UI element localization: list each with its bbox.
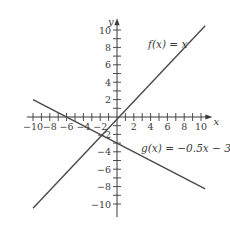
function-graph: −10−8−6−4−2246810−10−8−6−4−2246810 x y f… [0, 0, 230, 228]
svg-text:−8: −8 [97, 181, 111, 192]
function-label-f: f(x) = x [147, 38, 187, 50]
function-label-g: g(x) = −0.5x − 3 [141, 142, 230, 154]
y-axis-arrow-icon [114, 18, 119, 25]
svg-text:6: 6 [105, 59, 111, 70]
svg-text:4: 4 [148, 121, 154, 132]
svg-text:6: 6 [164, 121, 170, 132]
svg-text:8: 8 [181, 121, 187, 132]
svg-text:−10: −10 [91, 199, 111, 210]
svg-text:−6: −6 [97, 164, 111, 175]
svg-text:−6: −6 [60, 121, 74, 132]
svg-text:2: 2 [131, 121, 137, 132]
x-axis-label: x [213, 116, 219, 127]
y-axis-label: y [107, 16, 114, 27]
svg-text:2: 2 [105, 94, 111, 105]
svg-text:10: 10 [195, 121, 207, 132]
svg-text:8: 8 [105, 42, 111, 53]
x-axis-arrow-icon [205, 114, 212, 119]
svg-text:−8: −8 [43, 121, 57, 132]
svg-text:−4: −4 [97, 146, 111, 157]
svg-text:−10: −10 [23, 121, 43, 132]
svg-text:4: 4 [105, 77, 111, 88]
